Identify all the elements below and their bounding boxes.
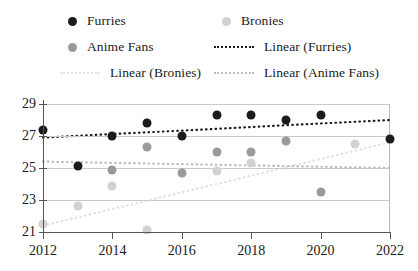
plot-area: 2123252729	[43, 104, 390, 232]
trendline-linear-furries	[43, 120, 390, 138]
gridline-y	[43, 200, 390, 201]
data-point	[108, 132, 117, 141]
data-point	[316, 188, 325, 197]
x-tick-label: 2012	[29, 244, 57, 258]
data-point	[73, 202, 82, 211]
legend-marker-dot-icon	[222, 17, 231, 26]
data-point	[177, 168, 186, 177]
y-tick-label: 23	[22, 193, 36, 207]
data-point	[143, 143, 152, 152]
x-tick-mark	[251, 232, 252, 239]
x-tick-label: 2020	[307, 244, 335, 258]
x-tick-label: 2014	[98, 244, 126, 258]
data-point	[143, 226, 152, 235]
data-point	[212, 111, 221, 120]
legend-dotted-line-icon	[214, 72, 254, 74]
data-point	[108, 165, 117, 174]
legend-label: Anime Fans	[87, 40, 154, 54]
x-tick-mark	[112, 232, 113, 239]
data-point	[247, 111, 256, 120]
y-tick-label: 29	[22, 97, 36, 111]
legend-label: Linear (Bronies)	[110, 66, 201, 80]
data-point	[143, 119, 152, 128]
legend-marker-dot-icon	[68, 17, 77, 26]
data-point	[386, 135, 395, 144]
legend-label: Furries	[87, 14, 126, 28]
data-point	[177, 132, 186, 141]
gridline-y	[43, 104, 390, 105]
y-tick-label: 21	[22, 225, 36, 239]
legend-label: Bronies	[241, 14, 284, 28]
legend-bronies[interactable]: Bronies	[210, 8, 410, 34]
x-axis-line	[43, 232, 390, 233]
legend-linear-bronies[interactable]: Linear (Bronies)	[60, 60, 210, 86]
x-tick-mark	[321, 232, 322, 239]
x-tick-label: 2022	[376, 244, 404, 258]
data-point	[108, 181, 117, 190]
x-tick-label: 2016	[168, 244, 196, 258]
y-axis-line	[43, 100, 44, 236]
chart-container: FurriesBroniesAnime FansLinear (Furries)…	[0, 0, 418, 271]
legend-marker-dot-icon	[68, 43, 77, 52]
legend-linear-furries[interactable]: Linear (Furries)	[210, 34, 410, 60]
data-point	[351, 140, 360, 149]
gridline-y	[43, 136, 390, 137]
legend-furries[interactable]: Furries	[60, 8, 210, 34]
data-point	[247, 159, 256, 168]
legend-label: Linear (Furries)	[264, 40, 351, 54]
data-point	[281, 116, 290, 125]
data-point	[316, 111, 325, 120]
y-tick-label: 25	[22, 161, 36, 175]
x-tick-mark	[182, 232, 183, 239]
x-tick-label: 2018	[237, 244, 265, 258]
plot-wrapper: 2123252729 201220142016201820202022	[0, 96, 418, 271]
y-tick-label: 27	[22, 129, 36, 143]
data-point	[212, 167, 221, 176]
x-tick-mark	[390, 232, 391, 239]
legend-dotted-line-icon	[60, 72, 100, 74]
legend-anime-fans[interactable]: Anime Fans	[60, 34, 210, 60]
legend-label: Linear (Anime Fans)	[264, 66, 379, 80]
data-point	[212, 148, 221, 157]
data-point	[247, 148, 256, 157]
legend-dotted-line-icon	[214, 46, 254, 48]
legend-linear-anime-fans[interactable]: Linear (Anime Fans)	[210, 60, 410, 86]
chart-legend: FurriesBroniesAnime FansLinear (Furries)…	[60, 8, 410, 84]
data-point	[73, 162, 82, 171]
data-point	[281, 136, 290, 145]
